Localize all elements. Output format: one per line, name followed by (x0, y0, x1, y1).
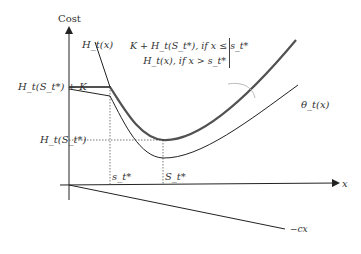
S-big-label: S_t* (165, 172, 186, 182)
H-curve-label: H_t(x) (82, 40, 113, 50)
level-low-label: H_t(S_t*) (40, 135, 86, 145)
piecewise-definition: K + H_t(S_t*), if x ≤ s_t* H_t(x), if x … (130, 38, 230, 68)
neg-cx-label: −cx (290, 225, 308, 234)
y-axis-label: Cost (58, 14, 81, 24)
neg-cx-line (69, 185, 285, 229)
piecewise-row-1: K + H_t(S_t*), if x ≤ s_t* (130, 38, 226, 53)
x-axis-label: x (342, 179, 348, 189)
s-small-label: s_t* (112, 172, 131, 182)
piecewise-row-2: H_t(x), if x > s_t* (130, 53, 226, 68)
x-axis (60, 183, 338, 185)
level-high-label: H_t(S_t*) + K (18, 82, 87, 92)
theta-curve (69, 85, 298, 158)
theta-curve-label: θ_t(x) (301, 100, 329, 110)
